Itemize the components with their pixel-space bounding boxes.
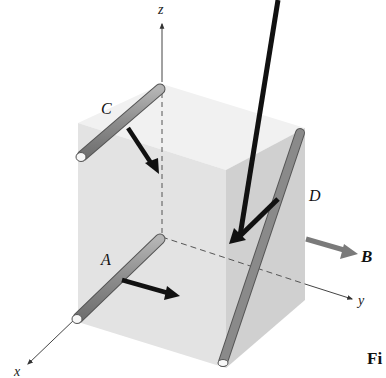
label-c: C: [101, 100, 112, 117]
x-axis-label: x: [13, 364, 21, 378]
y-axis-label: y: [356, 293, 365, 308]
z-axis-label: z: [157, 2, 164, 17]
label-d: D: [308, 187, 321, 204]
label-a: A: [100, 251, 111, 268]
statics-cube-diagram: z y x C A: [0, 0, 386, 378]
y-axis: y: [305, 284, 365, 308]
z-axis: z: [157, 2, 164, 82]
x-axis: x: [13, 318, 76, 378]
label-b: B: [360, 247, 372, 266]
force-arrow-b: B: [306, 239, 372, 266]
figure-caption-fragment: Fi: [367, 349, 382, 368]
